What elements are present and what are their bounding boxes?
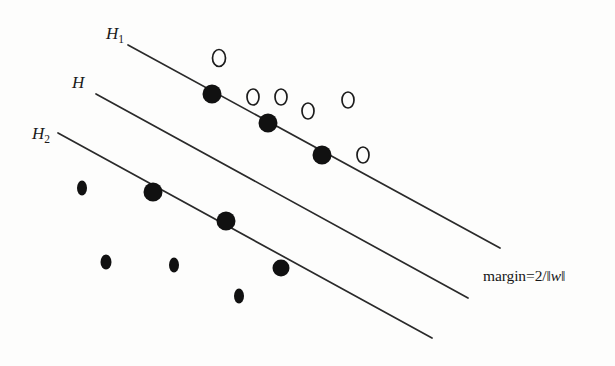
negative-data-point-9 <box>234 289 244 304</box>
negative-data-point-1 <box>259 114 278 133</box>
negative-data-point-4 <box>144 183 163 202</box>
hyperplane-label-h2-subscript: 2 <box>44 133 50 145</box>
svm-margin-figure: H1 H H2 margin=2/‖w‖ <box>0 0 615 366</box>
negative-data-point-0 <box>203 85 222 104</box>
negative-data-point-8 <box>273 260 290 277</box>
hyperplane-label-h: H <box>71 73 86 92</box>
hyperplane-label-h-base: H <box>71 73 86 92</box>
negative-data-point-3 <box>77 181 87 196</box>
negative-data-point-7 <box>169 258 179 273</box>
hyperplane-label-h1-subscript: 1 <box>118 33 124 45</box>
figure-canvas: H1 H H2 margin=2/‖w‖ <box>0 0 615 366</box>
margin-label-prefix: margin=2/‖ <box>483 267 551 284</box>
negative-data-point-2 <box>313 146 332 165</box>
negative-data-point-6 <box>101 255 112 270</box>
margin-label: margin=2/‖w‖ <box>483 267 565 284</box>
margin-label-suffix: ‖ <box>561 267 565 284</box>
negative-data-point-5 <box>217 212 236 231</box>
figure-background <box>0 0 615 366</box>
